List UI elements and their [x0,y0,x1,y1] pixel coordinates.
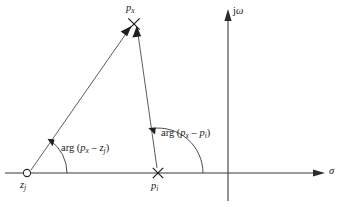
zero-marker-open-circle [23,169,30,176]
real-axis-label: σ [329,166,334,177]
axes-group [5,9,325,201]
imaginary-axis-label: jω [233,6,243,17]
test-point-marker-cross [128,18,139,29]
angle-label-arg-px-minus-pi: arg (px – pi) [161,128,210,140]
figure-canvas [0,0,341,207]
zero-label: zj [20,180,26,192]
angle-label-arg-px-minus-zj: arg (px – zj) [61,143,109,155]
imaginary-axis-arrowhead [224,9,231,21]
vector-pole-to-test-point [138,33,157,169]
pole-zero-angle-figure: px zj pi σ jω arg (px – zj) arg (px – pi… [0,0,341,207]
test-point-label: px [126,3,135,15]
pole-label: pi [151,181,158,193]
vector-pole-arrowhead [132,26,141,37]
real-axis-arrowhead [313,169,325,176]
